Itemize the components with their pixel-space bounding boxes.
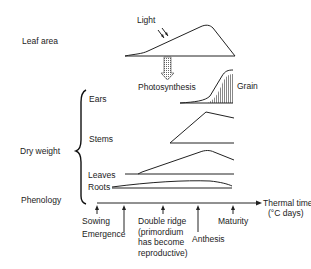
leaf-area-curve	[125, 25, 235, 56]
light-label: Light	[137, 15, 155, 25]
axis-label-thermal-time: Thermal time	[263, 198, 311, 208]
light-arrows-icon	[158, 28, 168, 38]
stage-sowing: Sowing	[82, 216, 110, 226]
roots-label: Roots	[88, 182, 110, 192]
phenology-label: Phenology	[21, 195, 61, 205]
dry-weight-brace	[76, 90, 86, 204]
stage-anthesis: Anthesis	[192, 234, 225, 244]
stems-label: Stems	[89, 134, 113, 144]
axis-label-units: (°C days)	[268, 208, 304, 218]
stage-maturity: Maturity	[218, 216, 248, 226]
leaf-area-label: Leaf area	[22, 36, 58, 46]
thermal-time-axis	[97, 201, 262, 206]
roots-curve	[112, 181, 232, 188]
grain-label: Grain	[237, 81, 258, 91]
photosynthesis-arrow-icon	[161, 57, 174, 80]
stage-double-ridge: Double ridge (primordium has become repr…	[138, 216, 188, 258]
dry-weight-label: Dry weight	[20, 146, 60, 156]
leaves-label: Leaves	[88, 170, 115, 180]
stems-curve	[170, 112, 234, 143]
leaves-curve	[125, 151, 234, 175]
photosynthesis-label: Photosynthesis	[138, 82, 196, 92]
ears-label: Ears	[89, 94, 106, 104]
stage-emergence: Emergence	[82, 229, 125, 239]
